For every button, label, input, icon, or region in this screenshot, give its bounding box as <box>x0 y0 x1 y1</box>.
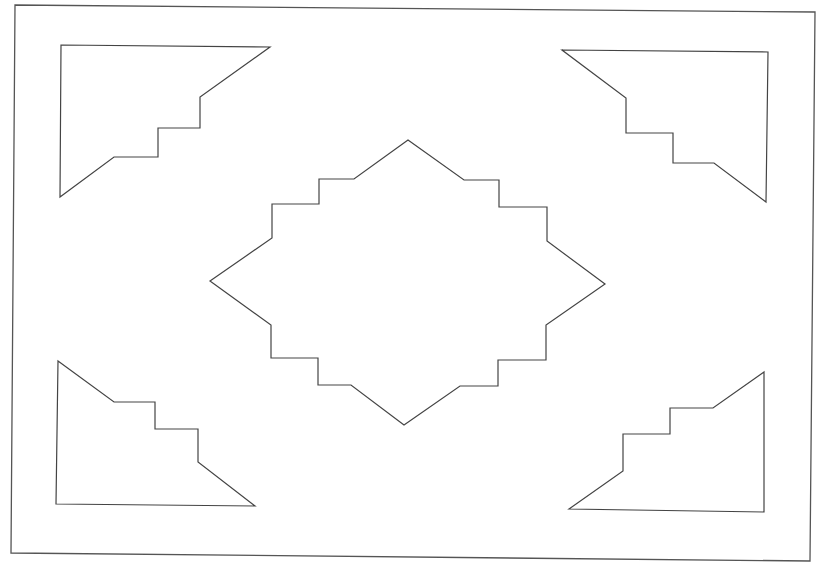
corner-bottom-left-shape <box>56 361 255 506</box>
corner-bottom-right-shape <box>569 372 764 512</box>
corner-top-right-shape <box>562 50 768 202</box>
center-medallion-shape <box>210 140 605 425</box>
corner-top-left-shape <box>60 45 270 197</box>
diagram-canvas <box>0 0 838 567</box>
